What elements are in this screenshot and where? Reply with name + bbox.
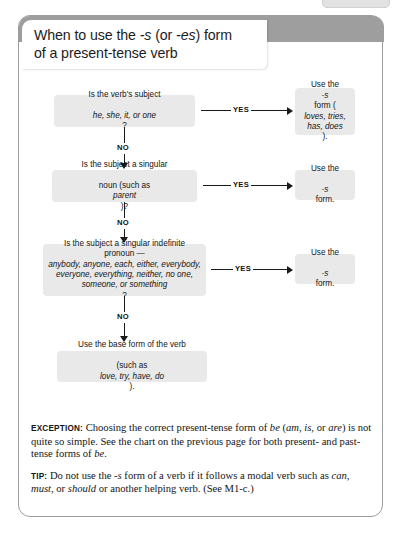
flow-node-question-3: Is the subject a singular indefinite pro… <box>43 244 206 296</box>
page-title: When to use the -s (or -es) form of a pr… <box>34 26 266 62</box>
page-edge-stub <box>322 0 390 8</box>
r1-examples: loves, tries, has, does <box>304 112 345 131</box>
no-label-2: NO <box>117 218 129 227</box>
title-line1-tail: ) form <box>195 27 231 43</box>
no-label-1: NO <box>117 143 129 152</box>
title-suffix-es: -es <box>176 27 195 43</box>
connector-no-3-upper <box>124 296 125 312</box>
r2-tail: form. <box>300 195 350 205</box>
q4-line2-lead: (such as <box>62 361 202 371</box>
q1-pronouns: he, she, it, or one <box>93 111 156 120</box>
arrowhead-yes-2 <box>287 182 293 190</box>
r1-mid: form ( <box>300 101 350 111</box>
flow-node-result-1: Use the -s form (loves, tries, has, does… <box>295 88 355 135</box>
flow-node-terminal: Use the base form of the verb (such as l… <box>57 351 207 382</box>
flow-node-result-2: Use the -s form. <box>295 170 355 200</box>
flow-node-question-2: Is the subject a singular noun (such as … <box>52 170 197 202</box>
no-label-3: NO <box>117 312 129 321</box>
r3-lead: Use the <box>300 248 350 258</box>
note-tip: TIP: Do not use the -s form of a verb if… <box>31 470 372 496</box>
tip-label: TIP: <box>31 472 47 481</box>
tip-seg3: or <box>54 483 68 494</box>
tip-seg4: or another helping verb. (See M1-c.) <box>96 483 254 494</box>
title-line1-lead: When to use the <box>34 27 140 43</box>
q4-examples: love, try, have, do <box>100 372 164 381</box>
reference-card: When to use the -s (or -es) form of a pr… <box>18 15 383 517</box>
tip-seg2: form of a verb if it follows a modal ver… <box>122 470 332 481</box>
yes-label-3: YES <box>233 264 253 273</box>
q4-line2-tail: ). <box>62 382 202 392</box>
tip-modals-2: should <box>68 483 96 494</box>
title-panel: When to use the -s (or -es) form of a pr… <box>22 20 267 69</box>
q2-example: parent <box>113 191 136 200</box>
r3-suffix: -s <box>322 269 329 278</box>
r2-lead: Use the <box>300 164 350 174</box>
q2-line2-lead: noun (such as <box>57 181 192 191</box>
exception-be-1: be <box>270 422 280 433</box>
yes-label-2: YES <box>231 180 251 189</box>
title-line2: of a present-tense verb <box>34 45 178 61</box>
flow-node-question-1: Is the verb's subject he, she, it, or on… <box>54 95 195 127</box>
flowchart: Is the verb's subject he, she, it, or on… <box>19 74 384 414</box>
q3-lead: Is the subject a singular indefinite pro… <box>48 239 201 260</box>
connector-no-2-upper <box>124 202 125 218</box>
q4-line1: Use the base form of the verb <box>62 340 202 350</box>
note-exception: EXCEPTION: Choosing the correct present-… <box>31 422 372 461</box>
notes-section: EXCEPTION: Choosing the correct present-… <box>31 422 372 496</box>
flow-node-result-3: Use the -s form. <box>295 254 355 284</box>
tip-suffix: -s <box>114 470 122 481</box>
r2-suffix: -s <box>322 185 329 194</box>
exception-seg1: Choosing the correct present-tense form … <box>83 422 270 433</box>
exception-be-2: be <box>94 448 104 459</box>
r1-tail: ). <box>300 132 350 142</box>
arrowhead-yes-1 <box>287 107 293 115</box>
q1-line1: Is the verb's subject <box>59 90 190 100</box>
exception-forms-1: am, is, <box>286 422 314 433</box>
exception-forms-2: are <box>328 422 342 433</box>
title-line1-mid: (or <box>151 27 176 43</box>
q2-line1: Is the subject a singular <box>57 160 192 170</box>
r1-lead: Use the <box>300 80 350 90</box>
title-suffix-s: -s <box>140 27 152 43</box>
arrowhead-yes-3 <box>287 266 293 274</box>
q3-pronoun-list: anybody, anyone, each, either, everybody… <box>48 260 201 290</box>
connector-no-3-lower <box>124 323 125 337</box>
r1-suffix: -s <box>322 91 329 100</box>
exception-seg5: . <box>104 448 107 459</box>
yes-label-1: YES <box>231 105 251 114</box>
exception-label: EXCEPTION: <box>31 424 83 433</box>
connector-no-1-upper <box>124 127 125 143</box>
tip-seg1: Do not use the <box>47 470 114 481</box>
r3-tail: form. <box>300 279 350 289</box>
exception-seg3: or <box>314 422 328 433</box>
